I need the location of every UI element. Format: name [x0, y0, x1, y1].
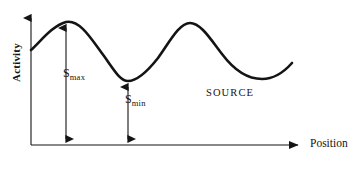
source-label: SOURCE: [206, 88, 254, 99]
plot-canvas: [0, 0, 360, 192]
y-axis-title: Activity: [11, 33, 22, 93]
s-min-label: Smin: [125, 93, 146, 107]
x-axis-title: Position: [310, 138, 348, 150]
s-max-symbol: S: [63, 66, 70, 80]
s-min-symbol: S: [125, 92, 132, 106]
s-min-subscript: min: [132, 98, 146, 108]
s-max-label: Smax: [63, 67, 85, 81]
s-max-subscript: max: [70, 72, 86, 82]
figure-container: Activity Position SOURCE Smax Smin: [0, 0, 360, 192]
